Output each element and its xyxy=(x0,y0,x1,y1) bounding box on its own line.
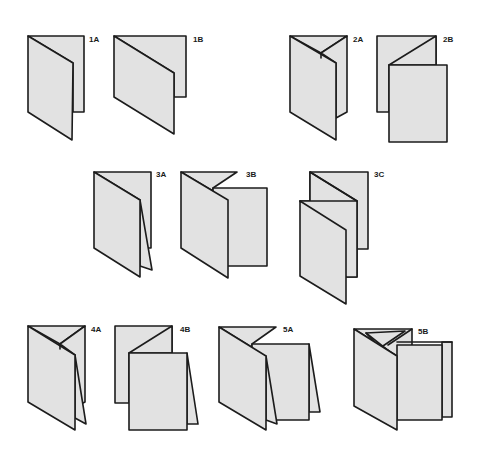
label-5b: 5B xyxy=(418,327,428,336)
figure-2b: 2B xyxy=(377,35,453,142)
label-4a: 4A xyxy=(91,325,101,334)
figure-4a: 4A xyxy=(28,325,101,430)
figure-3c: 3C xyxy=(300,170,384,304)
label-2b: 2B xyxy=(443,35,453,44)
label-3b: 3B xyxy=(246,170,256,179)
figure-5a: 5A xyxy=(219,325,320,430)
figure-1a: 1A xyxy=(28,35,99,140)
figure-4b: 4B xyxy=(115,325,198,430)
figure-5b: 5B xyxy=(354,327,452,430)
label-1a: 1A xyxy=(89,35,99,44)
label-5a: 5A xyxy=(283,325,293,334)
folding-diagram: 1A 1B 2A 2B 3A 3B xyxy=(0,0,480,454)
label-4b: 4B xyxy=(180,325,190,334)
figure-1b: 1B xyxy=(114,35,203,134)
figure-3b: 3B xyxy=(181,170,267,278)
label-3a: 3A xyxy=(156,170,166,179)
figure-3a: 3A xyxy=(94,170,166,277)
label-3c: 3C xyxy=(374,170,384,179)
label-1b: 1B xyxy=(193,35,203,44)
figure-2a: 2A xyxy=(290,35,363,140)
label-2a: 2A xyxy=(353,35,363,44)
